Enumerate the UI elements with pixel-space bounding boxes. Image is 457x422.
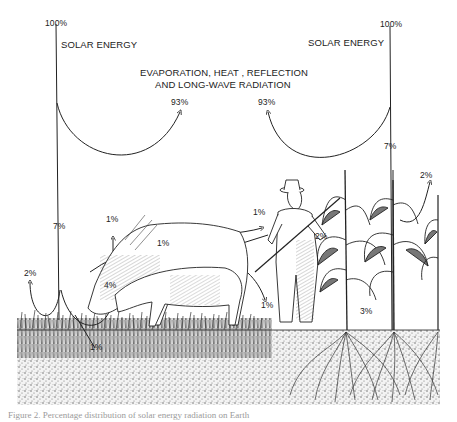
cow-side-percent: 1% (157, 238, 170, 248)
left-source-percent: 100% (45, 18, 67, 28)
loss-label-line2: AND LONG-WAVE RADIATION (155, 79, 291, 90)
soil (17, 318, 440, 405)
loss-label-line1: EVAPORATION, HEAT , REFLECTION (140, 67, 308, 78)
cow-head-percent: 4% (104, 280, 117, 290)
loss-left-percent: 93% (171, 97, 188, 107)
corn-percent: 2% (315, 231, 328, 241)
ground-reflect-percent: 2% (24, 268, 37, 278)
right-source-percent: 100% (380, 19, 402, 29)
right-absorbed-percent: 7% (384, 141, 397, 151)
corn-plants (317, 170, 438, 330)
right-edge-percent: 2% (420, 170, 433, 180)
farmer-percent: 1% (253, 207, 266, 217)
cow-up-percent: 1% (106, 214, 119, 224)
soil-percent: 1% (90, 342, 103, 352)
figure-caption: Figure 2. Percentage distribution of sol… (8, 410, 249, 420)
loss-right-percent: 93% (258, 97, 275, 107)
farmer-down-percent: 1% (261, 300, 274, 310)
right-source-label: SOLAR ENERGY (308, 37, 384, 48)
energy-flow-diagram (0, 0, 457, 422)
left-source-label: SOLAR ENERGY (61, 39, 137, 50)
corn-root-percent: 3% (360, 306, 373, 316)
left-absorbed-percent: 7% (53, 221, 66, 231)
